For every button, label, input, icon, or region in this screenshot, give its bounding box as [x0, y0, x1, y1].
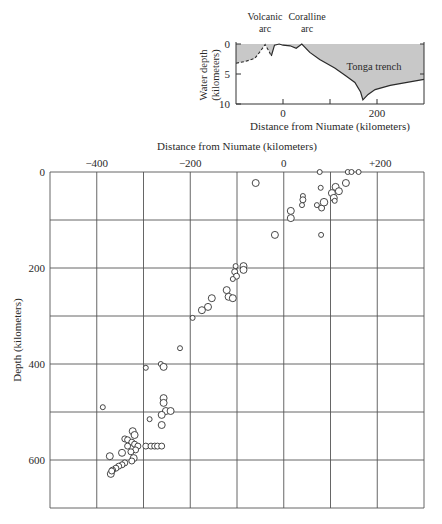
y-tick-label: 0	[40, 166, 46, 178]
earthquake-point	[198, 307, 205, 314]
earthquake-point	[160, 363, 167, 370]
earthquake-point	[229, 295, 236, 302]
earthquake-point	[332, 198, 337, 203]
earthquake-point	[223, 287, 230, 294]
profile-xlabel: Distance from Niumate (kilometers)	[250, 120, 410, 133]
earthquake-depth-panel: Distance from Niumate (kilometers) Depth…	[11, 140, 424, 508]
earthquake-point	[208, 295, 215, 302]
earthquake-point	[160, 399, 167, 406]
earthquake-points	[100, 170, 361, 478]
profile-ylabel-2: (kilometers)	[210, 49, 222, 101]
x-tick-label: −400	[85, 157, 108, 169]
earthquake-point	[318, 185, 323, 190]
earthquake-point	[158, 411, 165, 418]
profile-xtick-label: 0	[280, 107, 286, 119]
earthquake-point	[271, 231, 278, 238]
earthquake-point	[125, 443, 131, 449]
x-tick-label: +200	[369, 157, 392, 169]
main-ylabel: Depth (kilometers)	[11, 298, 24, 382]
y-tick-labels: 0200400600	[29, 166, 46, 466]
earthquake-point	[147, 417, 152, 422]
earthquake-point	[319, 232, 324, 237]
earthquake-point	[159, 443, 165, 449]
earthquake-point	[300, 203, 305, 208]
earthquake-point	[178, 346, 183, 351]
earthquake-point	[109, 468, 115, 474]
grid	[50, 172, 424, 508]
figure: 05100200 Volcanic arc Coralline arc Tong…	[0, 0, 442, 524]
earthquake-point	[190, 315, 195, 320]
profile-ytick-label: 0	[225, 38, 231, 50]
earthquake-point	[100, 405, 105, 410]
y-tick-label: 200	[29, 262, 46, 274]
earthquake-point	[131, 432, 138, 439]
earthquake-point	[320, 198, 328, 206]
tonga-trench-label: Tonga trench	[347, 61, 403, 72]
volcanic-arc-label-2: arc	[259, 23, 272, 34]
earthquake-point	[287, 207, 294, 214]
y-tick-label: 600	[29, 454, 46, 466]
earthquake-point	[128, 449, 134, 455]
coralline-arc-label-1: Coralline	[288, 11, 326, 22]
earthquake-point	[252, 180, 259, 187]
profile-ytick-label: 5	[225, 68, 231, 80]
coralline-arc-label-2: arc	[301, 23, 314, 34]
earthquake-point	[119, 449, 126, 456]
earthquake-point	[230, 277, 235, 282]
earthquake-point	[349, 170, 354, 175]
profile-ylabel-1: Water depth	[198, 49, 209, 101]
earthquake-point	[300, 197, 306, 203]
profile-xtick-label: 200	[369, 107, 386, 119]
earthquake-point	[106, 453, 113, 460]
earthquake-point	[342, 180, 349, 187]
seafloor-profile-panel: 05100200 Volcanic arc Coralline arc Tong…	[198, 11, 424, 133]
y-tick-label: 400	[29, 358, 46, 370]
main-xaxis-title: Distance from Niumate (kilometers)	[157, 140, 317, 153]
x-tick-labels: −400−2000+200	[85, 157, 392, 169]
earthquake-point	[129, 458, 135, 464]
earthquake-point	[167, 408, 174, 415]
earthquake-point	[240, 266, 247, 273]
earthquake-point	[335, 188, 342, 195]
earthquake-point	[287, 215, 294, 222]
x-tick-label: 0	[281, 157, 287, 169]
volcanic-arc-label-1: Volcanic	[248, 11, 283, 22]
earthquake-point	[143, 365, 148, 370]
x-tick-label: −200	[179, 157, 202, 169]
earthquake-point	[356, 170, 361, 175]
earthquake-point	[158, 422, 165, 429]
earthquake-point	[233, 264, 238, 269]
earthquake-point	[317, 170, 322, 175]
